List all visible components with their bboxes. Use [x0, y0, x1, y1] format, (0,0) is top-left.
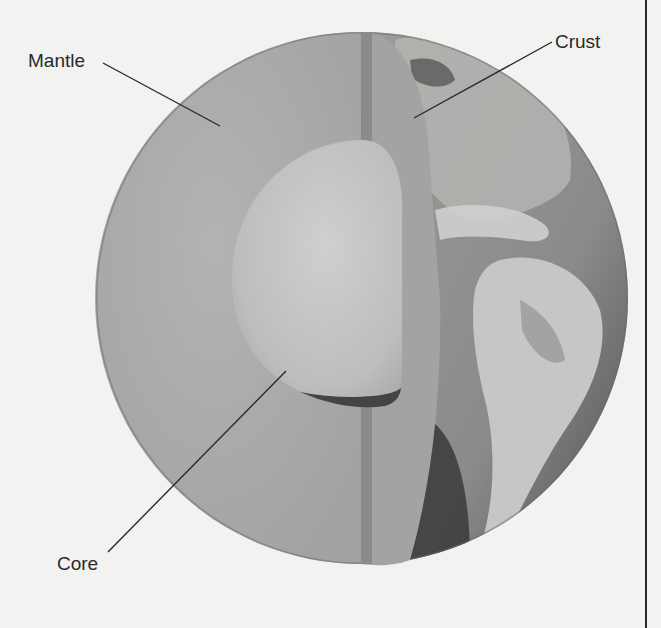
earth-cutaway-illustration — [0, 0, 661, 628]
label-core: Core — [57, 554, 98, 573]
earth-layers-diagram: Mantle Crust Core — [0, 0, 661, 628]
label-crust: Crust — [555, 32, 600, 51]
page-margin-rule — [645, 0, 647, 628]
label-mantle: Mantle — [28, 51, 85, 70]
